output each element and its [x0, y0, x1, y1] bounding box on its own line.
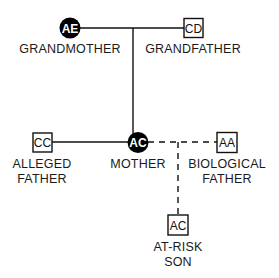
label-mother: MOTHER: [110, 157, 165, 171]
label-alleged-father-line2: FATHER: [17, 172, 67, 186]
node-at-risk-son: AC: [168, 215, 188, 235]
node-id: CC: [34, 136, 52, 150]
label-grandmother: GRANDMOTHER: [19, 42, 121, 56]
label-grandfather: GRANDFATHER: [145, 42, 241, 56]
node-alleged-father: CC: [33, 133, 52, 152]
node-id: CD: [185, 22, 203, 36]
label-alleged-father-line1: ALLEGED: [12, 157, 71, 171]
node-grandfather: CD: [184, 19, 203, 38]
node-grandmother: AE: [60, 18, 81, 39]
label-biological-father-line2: FATHER: [202, 172, 252, 186]
node-biological-father: AA: [217, 133, 237, 153]
node-mother: AC: [128, 132, 149, 153]
label-biological-father-line1: BIOLOGICAL: [188, 157, 266, 171]
node-id: AE: [62, 22, 79, 36]
node-id: AC: [129, 136, 147, 150]
node-id: AC: [170, 219, 187, 233]
label-son-line1: AT-RISK: [153, 240, 202, 254]
node-id: AA: [219, 136, 235, 150]
label-son-line2: SON: [164, 255, 192, 269]
